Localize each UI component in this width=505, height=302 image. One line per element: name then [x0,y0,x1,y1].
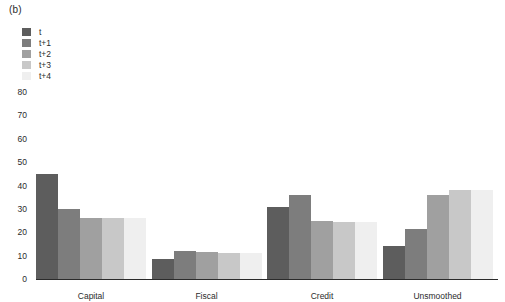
bar [152,259,174,279]
x-axis-label: Fiscal [152,291,262,301]
x-axis-label-cell: Fiscal [152,285,268,302]
bar [240,253,262,279]
bar-group [36,92,152,279]
bar [58,209,80,279]
legend-label-t-plus-1: t+1 [39,38,51,48]
bar [196,252,218,279]
bar [174,251,196,279]
legend-item-t-plus-2: t+2 [22,49,51,59]
legend-swatch-t-plus-4 [22,72,31,80]
bar [289,195,311,279]
y-axis-tick-label: 70 [18,110,27,120]
legend-item-t-plus-3: t+3 [22,60,51,70]
legend-swatch-t [22,28,31,36]
legend-label-t-plus-2: t+2 [39,49,51,59]
legend-item-t: t [22,27,51,37]
legend-label-t: t [39,27,41,37]
bar [449,190,471,279]
y-axis-tick-label: 30 [18,204,27,214]
y-axis-tick-label: 0 [22,274,27,284]
legend-swatch-t-plus-3 [22,61,31,69]
bar [311,221,333,279]
bar [383,246,405,279]
bar-group [383,92,499,279]
figure-panel-b: (b) t t+1 t+2 t+3 t+4 01020304050607080 … [0,0,505,302]
bar [218,253,240,279]
legend-swatch-t-plus-2 [22,50,31,58]
y-axis-tick-label: 80 [18,87,27,97]
y-axis-tick-label: 40 [18,181,27,191]
x-axis-label-cell: Unsmoothed [383,285,499,302]
bar [405,229,427,279]
chart-legend: t t+1 t+2 t+3 t+4 [22,27,51,81]
x-axis-line [36,279,498,280]
x-axis-label: Unsmoothed [383,291,493,301]
x-axis-label-cell: Credit [267,285,383,302]
bar [124,218,146,279]
bar [355,222,377,279]
bar [333,222,355,279]
bar [36,174,58,279]
bar [471,190,493,279]
bar-group [152,92,268,279]
y-axis-ticks: 01020304050607080 [0,92,32,279]
x-axis-label-cell: Capital [36,285,152,302]
bar [427,195,449,279]
legend-label-t-plus-4: t+4 [39,71,51,81]
legend-item-t-plus-4: t+4 [22,71,51,81]
bar-groups [36,92,498,279]
bar [267,207,289,279]
legend-item-t-plus-1: t+1 [22,38,51,48]
x-axis-labels: CapitalFiscalCreditUnsmoothed [36,285,498,302]
bar [80,218,102,279]
legend-label-t-plus-3: t+3 [39,60,51,70]
panel-label: (b) [9,4,22,15]
y-axis-tick-label: 60 [18,134,27,144]
x-axis-label: Credit [267,291,377,301]
y-axis-tick-label: 10 [18,251,27,261]
legend-swatch-t-plus-1 [22,39,31,47]
x-axis-label: Capital [36,291,146,301]
y-axis-tick-label: 50 [18,157,27,167]
bar [102,218,124,279]
bar-group [267,92,383,279]
y-axis-tick-label: 20 [18,227,27,237]
